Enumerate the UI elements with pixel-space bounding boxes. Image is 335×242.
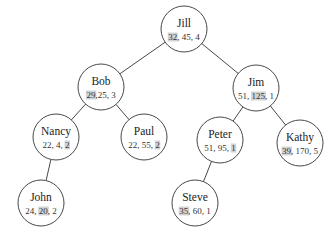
node-name: Steve xyxy=(182,191,208,203)
tree-node-nancy: Nancy22, 4, 2 xyxy=(33,114,79,160)
edge-jim-peter xyxy=(233,107,243,121)
tree-nodes: Jill32, 45, 4Bob29,25, 3Jim51, 125, 1Nan… xyxy=(18,6,323,226)
node-values: 29,25, 3 xyxy=(86,90,116,100)
edge-bob-nancy xyxy=(71,104,85,120)
node-values: 51, 95, 1 xyxy=(204,143,236,153)
node-name: Bob xyxy=(91,75,110,87)
highlighted-value: 2 xyxy=(65,140,70,150)
edge-nancy-john xyxy=(46,159,51,180)
node-circle xyxy=(197,117,243,163)
edge-jill-bob xyxy=(120,42,165,74)
node-value: 2 xyxy=(52,206,57,216)
node-values: 22, 4, 2 xyxy=(43,140,70,150)
node-circle xyxy=(277,120,323,166)
tree-node-paul: Paul22, 55, 2 xyxy=(121,114,167,160)
node-name: Kathy xyxy=(286,131,314,144)
tree-node-peter: Peter51, 95, 1 xyxy=(197,117,243,163)
node-value: 1 xyxy=(270,91,275,101)
tree-node-steve: Steve35, 60, 1 xyxy=(172,180,218,226)
node-circle xyxy=(121,114,167,160)
node-name: Jim xyxy=(248,76,265,88)
node-value: 170 xyxy=(296,146,310,156)
node-value: 51 xyxy=(204,143,213,153)
node-values: 51, 125, 1 xyxy=(238,91,274,101)
node-circle xyxy=(18,180,64,226)
tree-diagram: Jill32, 45, 4Bob29,25, 3Jim51, 125, 1Nan… xyxy=(0,0,335,242)
node-value: 5 xyxy=(314,146,319,156)
tree-node-jill: Jill32, 45, 4 xyxy=(161,6,207,52)
highlighted-value: 125 xyxy=(252,91,266,101)
tree-node-bob: Bob29,25, 3 xyxy=(78,64,124,110)
edge-peter-steve xyxy=(203,161,211,181)
node-circle xyxy=(161,6,207,52)
highlighted-value: 2 xyxy=(155,140,160,150)
node-value: 51 xyxy=(238,91,247,101)
edge-jim-kathy xyxy=(270,106,285,125)
node-value: 22 xyxy=(43,140,52,150)
node-values: 35, 60, 1 xyxy=(179,206,211,216)
tree-node-jim: Jim51, 125, 1 xyxy=(233,65,279,111)
node-circle xyxy=(33,114,79,160)
tree-edges xyxy=(46,42,286,181)
edge-jill-jim xyxy=(202,44,238,74)
node-circle xyxy=(78,64,124,110)
node-circle xyxy=(172,180,218,226)
node-values: 32, 45, 4 xyxy=(168,32,200,42)
edge-bob-paul xyxy=(116,104,129,119)
node-name: John xyxy=(30,191,52,203)
tree-node-john: John24, 20, 2 xyxy=(18,180,64,226)
highlighted-value: 32 xyxy=(168,32,177,42)
node-values: 24, 20, 2 xyxy=(25,206,57,216)
node-value: 3 xyxy=(111,90,116,100)
node-name: Paul xyxy=(134,125,154,137)
node-value: 4 xyxy=(195,32,200,42)
node-name: Nancy xyxy=(41,125,71,138)
node-name: Jill xyxy=(177,17,191,29)
node-name: Peter xyxy=(208,128,232,140)
node-values: 22, 55, 2 xyxy=(128,140,160,150)
node-value: 22 xyxy=(128,140,137,150)
node-circle xyxy=(233,65,279,111)
node-value: 1 xyxy=(206,206,211,216)
highlighted-value: 1 xyxy=(231,143,236,153)
tree-node-kathy: Kathy39, 170, 5 xyxy=(277,120,323,166)
node-values: 39, 170, 5 xyxy=(282,146,319,156)
